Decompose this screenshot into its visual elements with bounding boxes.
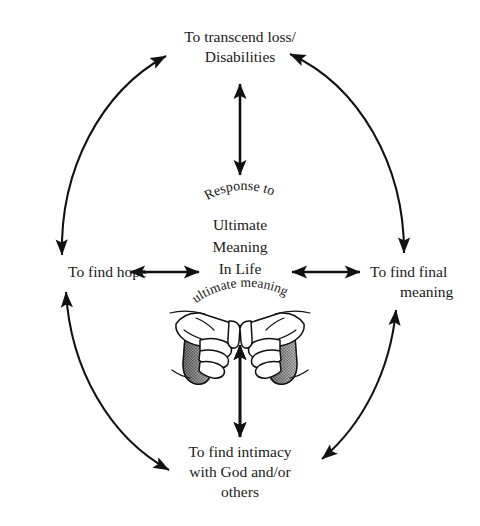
center-line-1: Ultimate <box>213 216 267 233</box>
center-curved-bottom-text: ultimate meaning <box>189 275 291 306</box>
center-line-3: In Life <box>219 260 262 277</box>
node-top-line-1: To transcend loss/ <box>184 28 296 45</box>
center-line-2: Meaning <box>212 238 267 255</box>
center-curved-top-text: Response to <box>202 178 277 203</box>
node-left-line-1: To find hope <box>68 263 147 280</box>
right-hand <box>240 311 310 384</box>
node-right-line-2: meaning <box>400 283 454 300</box>
center-block: Response to Ultimate Meaning In Life ult… <box>189 178 291 306</box>
arc-transcend-to-final-meaning <box>290 54 404 253</box>
left-hand <box>170 311 240 384</box>
diagram-root: To transcend loss/ Disabilities To find … <box>0 0 480 526</box>
node-bottom-line-3: others <box>221 483 259 500</box>
right-hand-thumb <box>240 321 252 348</box>
arc-intimacy-to-hope <box>66 292 169 470</box>
node-bottom-line-1: To find intimacy <box>188 443 291 460</box>
arc-hope-to-transcend <box>62 56 166 255</box>
node-left[interactable]: To find hope <box>68 263 147 280</box>
cycle-diagram-canvas: To transcend loss/ Disabilities To find … <box>0 0 480 526</box>
center-curved-bottom-textpath: ultimate meaning <box>189 275 291 306</box>
center-curved-top-textpath: Response to <box>202 178 277 203</box>
left-hand-thumb <box>228 321 240 348</box>
node-right[interactable]: To find final meaning <box>370 263 454 300</box>
node-top-line-2: Disabilities <box>205 48 276 65</box>
node-top[interactable]: To transcend loss/ Disabilities <box>184 28 296 65</box>
node-bottom[interactable]: To find intimacy with God and/or others <box>188 443 291 500</box>
arc-final-meaning-to-intimacy <box>322 310 396 459</box>
node-bottom-line-2: with God and/or <box>189 463 291 480</box>
node-right-line-1: To find final <box>370 263 447 280</box>
